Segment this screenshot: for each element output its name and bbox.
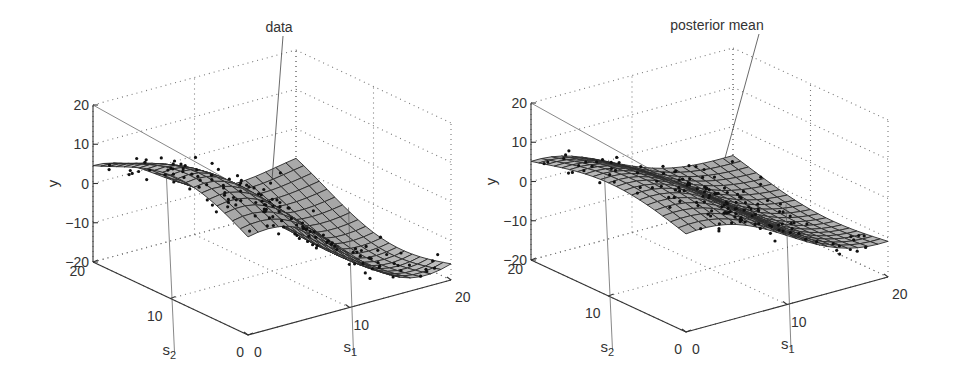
z-tick-20: 20 xyxy=(511,95,527,111)
z-tick-0: 0 xyxy=(519,174,527,190)
z-tick-minus10: −10 xyxy=(503,213,527,229)
z-tick-10: 10 xyxy=(511,134,527,150)
z-tick-labels: 20 10 0 −10 −20 xyxy=(503,95,527,268)
surface-plot-posterior-mean: posterior mean 20 10 0 −10 −20 y 0 10 20… xyxy=(0,0,953,385)
s1-axis-label: s1 xyxy=(781,335,795,355)
s2-tick-20: 20 xyxy=(507,261,523,277)
z-axis-label: y xyxy=(482,177,499,185)
right-plot-posterior-mean: posterior mean 20 10 0 −10 −20 y 0 10 20… xyxy=(0,0,476,385)
s1-tick-10: 10 xyxy=(791,314,807,330)
s2-tick-labels: 0 10 20 xyxy=(507,261,682,357)
annotation-label: posterior mean xyxy=(670,17,763,33)
s1-tick-0: 0 xyxy=(692,341,700,357)
s2-tick-10: 10 xyxy=(585,305,601,321)
annotation: posterior mean xyxy=(670,17,763,158)
s1-tick-20: 20 xyxy=(892,286,908,302)
s2-tick-0: 0 xyxy=(674,341,682,357)
